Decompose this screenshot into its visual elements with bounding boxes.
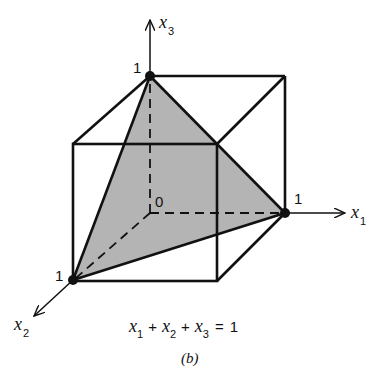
origin-label: 0: [155, 193, 163, 210]
plane-equation: x1+x2+x3=1: [128, 316, 238, 340]
x2-axis: [34, 280, 73, 316]
x1-axis-label: x1: [350, 202, 366, 227]
x2-tick-label: 1: [55, 267, 63, 284]
x1-tick-label: 1: [294, 190, 302, 207]
simplex-diagram: 1 1 1 0 x3 x1 x2 x1+x2+x3=1 (b): [0, 0, 378, 384]
vertex-x3: [145, 71, 155, 81]
vertex-x1: [280, 208, 290, 218]
x3-axis-label: x3: [158, 12, 174, 37]
x2-axis-label: x2: [13, 314, 29, 339]
vertex-x2: [68, 275, 78, 285]
figure-caption: (b): [181, 350, 199, 367]
x3-tick-label: 1: [133, 59, 141, 76]
